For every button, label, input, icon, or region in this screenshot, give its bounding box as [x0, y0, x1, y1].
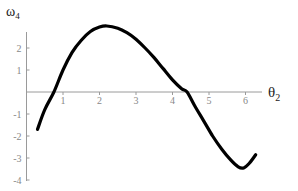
- x-tick-label: 3: [134, 95, 139, 106]
- x-tick-label: 4: [170, 95, 175, 106]
- x-tick-label: 2: [97, 95, 102, 106]
- axes: [27, 32, 263, 181]
- y-tick-label: -2: [13, 131, 21, 142]
- y-tick-label: -3: [13, 153, 21, 164]
- y-tick-label: 2: [17, 43, 22, 54]
- x-axis-label: θ2: [268, 84, 280, 103]
- y-tick-label: 1: [17, 65, 22, 76]
- x-tick-label: 6: [243, 95, 248, 106]
- y-tick-label: -4: [13, 175, 21, 186]
- y-tick-label: -1: [13, 109, 21, 120]
- x-tick-label: 1: [61, 95, 66, 106]
- chart: 123456-4-3-2-112 ω4 θ2: [0, 0, 298, 191]
- y-axis-label: ω4: [6, 4, 20, 21]
- data-line: [38, 26, 256, 168]
- ticks: 123456-4-3-2-112: [13, 43, 248, 186]
- x-tick-label: 5: [207, 95, 212, 106]
